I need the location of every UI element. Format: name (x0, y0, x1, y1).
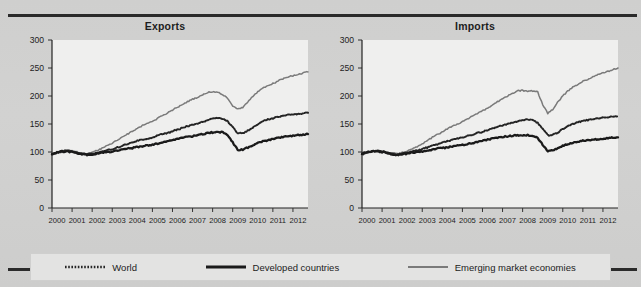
y-tick-label: 250 (30, 63, 45, 73)
x-tick-label: 2006 (169, 216, 186, 225)
x-tick-label: 2008 (209, 216, 226, 225)
x-tick-label: 2002 (89, 216, 106, 225)
legend-swatch-emerging (408, 262, 448, 272)
y-tick-label: 300 (30, 35, 45, 45)
y-tick-label: 200 (30, 91, 45, 101)
x-tick-label: 2002 (399, 216, 416, 225)
chart-legend: World Developed countries Emerging marke… (30, 253, 611, 281)
x-tick-label: 2003 (419, 216, 436, 225)
x-tick-label: 2012 (599, 216, 616, 225)
legend-item-developed: Developed countries (206, 262, 340, 273)
x-tick-label: 2001 (69, 216, 86, 225)
legend-item-world: World (65, 262, 137, 273)
chart-title-exports: Exports (10, 20, 320, 32)
panels-wrapper: Exports 05010015020025030020002001200220… (10, 20, 631, 270)
figure-container: Exports 05010015020025030020002001200220… (0, 0, 641, 287)
x-tick-label: 2012 (289, 216, 306, 225)
legend-swatch-developed (206, 262, 246, 272)
x-tick-label: 2000 (359, 216, 376, 225)
x-tick-label: 2007 (189, 216, 206, 225)
x-tick-label: 2006 (479, 216, 496, 225)
x-tick-label: 2011 (270, 216, 286, 225)
y-tick-label: 100 (340, 147, 355, 157)
y-tick-label: 150 (340, 119, 355, 129)
legend-item-emerging: Emerging market economies (408, 262, 576, 273)
svg-exports: 0501001502002503002000200120022003200420… (10, 34, 320, 234)
legend-label-developed: Developed countries (253, 262, 340, 273)
y-tick-label: 100 (30, 147, 45, 157)
y-tick-label: 250 (340, 63, 355, 73)
legend-label-emerging: Emerging market economies (455, 262, 576, 273)
chart-title-imports: Imports (320, 20, 630, 32)
top-rule (8, 14, 637, 17)
y-tick-label: 0 (349, 203, 354, 213)
y-tick-label: 0 (39, 203, 44, 213)
x-tick-label: 2009 (539, 216, 556, 225)
x-tick-label: 2010 (559, 216, 576, 225)
y-tick-label: 50 (344, 175, 354, 185)
x-tick-label: 2007 (499, 216, 516, 225)
y-tick-label: 150 (30, 119, 45, 129)
legend-label-world: World (112, 262, 137, 273)
legend-swatch-world (65, 262, 105, 272)
charts-row: Exports 05010015020025030020002001200220… (10, 20, 631, 235)
svg-imports: 0501001502002503002000200120022003200420… (320, 34, 630, 234)
x-tick-label: 2003 (109, 216, 126, 225)
x-tick-label: 2009 (229, 216, 246, 225)
chart-panel-exports: Exports 05010015020025030020002001200220… (10, 20, 320, 235)
plot-area-imports: 0501001502002503002000200120022003200420… (320, 34, 630, 234)
plot-area-exports: 0501001502002503002000200120022003200420… (10, 34, 320, 234)
y-tick-label: 300 (340, 35, 355, 45)
x-tick-label: 2005 (459, 216, 476, 225)
x-tick-label: 2001 (379, 216, 396, 225)
x-tick-label: 2000 (49, 216, 66, 225)
y-tick-label: 200 (340, 91, 355, 101)
x-tick-label: 2005 (149, 216, 166, 225)
x-tick-label: 2011 (580, 216, 596, 225)
x-tick-label: 2004 (129, 216, 146, 225)
x-tick-label: 2010 (249, 216, 266, 225)
chart-panel-imports: Imports 05010015020025030020002001200220… (320, 20, 630, 235)
x-tick-label: 2008 (519, 216, 536, 225)
x-tick-label: 2004 (439, 216, 456, 225)
y-tick-label: 50 (34, 175, 44, 185)
